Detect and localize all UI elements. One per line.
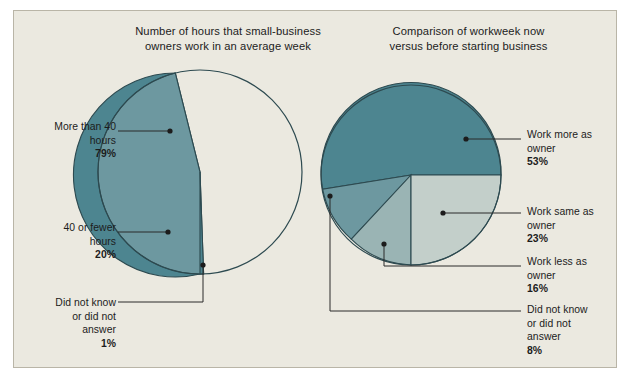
label-did-not-know-right-line2: or did not: [527, 317, 627, 331]
label-work-same-as-owner-line2: owner: [527, 219, 627, 233]
left-chart-title: Number of hours that small-business owne…: [104, 24, 352, 54]
figure-root: Number of hours that small-business owne…: [0, 0, 629, 380]
label-did-not-know-left-value: 1%: [101, 338, 116, 349]
label-did-not-know-left-line3: answer: [8, 323, 116, 337]
right-chart-title: Comparison of workweek now versus before…: [356, 24, 581, 54]
label-did-not-know-right-line1: Did not know: [527, 303, 627, 317]
label-work-less-as-owner-line2: owner: [527, 269, 627, 283]
label-work-more-as-owner-line1: Work more as: [527, 128, 627, 142]
label-work-same-as-owner-value: 23%: [527, 233, 548, 244]
label-work-more-as-owner-line2: owner: [527, 142, 627, 156]
label-work-same-as-owner-line1: Work same as: [527, 205, 627, 219]
label-did-not-know-right-value: 8%: [527, 345, 542, 356]
label-more-than-40-hours: More than 40 hours 79%: [8, 120, 116, 161]
label-more-than-40-hours-line1: More than 40: [8, 120, 116, 134]
label-40-or-fewer-hours-value: 20%: [95, 249, 116, 260]
label-work-less-as-owner-value: 16%: [527, 283, 548, 294]
label-more-than-40-hours-line2: hours: [8, 134, 116, 148]
label-did-not-know-left-line1: Did not know: [8, 296, 116, 310]
label-more-than-40-hours-value: 79%: [95, 148, 116, 159]
label-did-not-know-right: Did not know or did not answer 8%: [527, 303, 627, 357]
label-did-not-know-right-line3: answer: [527, 330, 627, 344]
right-chart-title-line2: versus before starting business: [356, 39, 581, 54]
label-work-more-as-owner: Work more as owner 53%: [527, 128, 627, 169]
left-chart-title-line2: owners work in an average week: [104, 39, 352, 54]
right-chart-title-line1: Comparison of workweek now: [356, 24, 581, 39]
label-work-same-as-owner: Work same as owner 23%: [527, 205, 627, 246]
label-work-less-as-owner-line1: Work less as: [527, 255, 627, 269]
label-work-less-as-owner: Work less as owner 16%: [527, 255, 627, 296]
label-work-more-as-owner-value: 53%: [527, 156, 548, 167]
label-40-or-fewer-hours: 40 or fewer hours 20%: [8, 221, 116, 262]
label-40-or-fewer-hours-line1: 40 or fewer: [8, 221, 116, 235]
label-40-or-fewer-hours-line2: hours: [8, 235, 116, 249]
label-did-not-know-left: Did not know or did not answer 1%: [8, 296, 116, 350]
left-chart-title-line1: Number of hours that small-business: [104, 24, 352, 39]
label-did-not-know-left-line2: or did not: [8, 310, 116, 324]
